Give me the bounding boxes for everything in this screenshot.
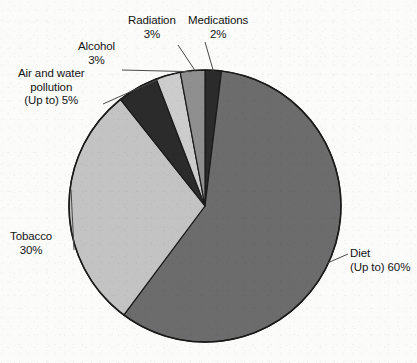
slice-label-alcohol-name: Alcohol [78,40,115,54]
slice-label-air-and-water-pollution-name2: pollution [18,81,84,95]
slice-label-diet-value: (Up to) 60% [350,261,410,275]
pie-chart-canvas [0,0,417,363]
slice-label-medications-name: Medications [188,14,248,28]
slice-label-diet-name: Diet [350,247,410,261]
slice-label-air-and-water-pollution-value: (Up to) 5% [18,94,84,108]
slice-label-alcohol: Alcohol 3% [78,40,115,67]
slice-label-radiation: Radiation 3% [128,14,176,41]
slice-label-alcohol-value: 3% [78,54,115,68]
slice-label-air-and-water-pollution: Air and water pollution (Up to) 5% [18,67,84,108]
slice-label-tobacco-name: Tobacco [10,230,52,244]
slice-label-radiation-name: Radiation [128,14,176,28]
slice-label-radiation-value: 3% [128,28,176,42]
leader-line-alcohol [122,70,191,72]
slice-label-tobacco-value: 30% [10,244,52,258]
slice-label-medications: Medications 2% [188,14,248,41]
slice-label-tobacco: Tobacco 30% [10,230,52,257]
leader-line-radiation [178,45,196,71]
pie-chart: Medications 2% Radiation 3% Alcohol 3% A… [0,0,417,363]
slice-label-diet: Diet (Up to) 60% [350,247,410,274]
slice-label-air-and-water-pollution-name1: Air and water [18,67,84,81]
slice-label-medications-value: 2% [188,28,248,42]
pie-slices [69,70,341,342]
leader-line-medications [205,42,213,71]
